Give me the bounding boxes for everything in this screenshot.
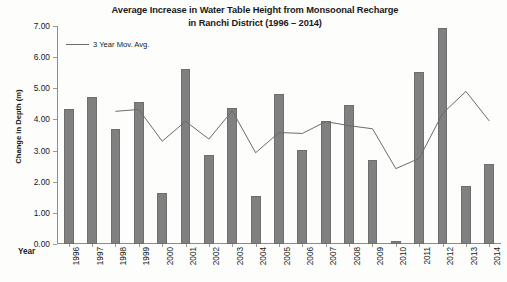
x-tick-mark [396,244,397,247]
x-tick-mark [279,244,280,247]
y-tick-mark [53,213,57,214]
chart-legend: 3 Year Mov. Avg. [66,40,149,49]
x-tick-mark [443,244,444,247]
x-tick-mark [186,244,187,247]
bar [297,150,307,244]
x-tick-label: 2008 [353,247,362,265]
y-tick-mark [53,244,57,245]
x-tick-mark [209,244,210,247]
y-tick-mark [53,119,57,120]
bar [227,108,237,244]
x-axis-title: Year [18,247,35,256]
x-tick-label: 2000 [166,247,175,265]
x-tick-mark [139,244,140,247]
x-tick-label: 2004 [259,247,268,265]
bar [111,129,121,244]
x-tick-label: 2013 [470,247,479,265]
x-tick-mark [256,244,257,247]
x-tick-label: 1998 [119,247,128,265]
x-tick-mark [92,244,93,247]
y-tick-mark [53,182,57,183]
x-tick-label: 2011 [423,247,432,265]
bar [64,109,74,244]
chart-title-line-1: Average Increase in Water Table Height f… [60,4,450,17]
legend-label: 3 Year Mov. Avg. [93,40,149,49]
x-tick-mark [326,244,327,247]
x-tick-label: 2012 [446,247,455,265]
bar [204,155,214,244]
x-tick-mark [69,244,70,247]
y-tick-mark [53,88,57,89]
x-tick-label: 2009 [376,247,385,265]
x-tick-mark [372,244,373,247]
x-tick-mark [489,244,490,247]
legend-line-icon [66,44,89,45]
x-tick-label: 2001 [189,247,198,265]
plot-area: 0.001.002.003.004.005.006.007.00 [57,26,501,244]
bar [461,186,471,244]
y-tick-mark [53,26,57,27]
y-tick-mark [53,151,57,152]
y-axis-line [57,26,58,244]
bar [251,196,261,244]
x-tick-label: 2002 [212,247,221,265]
bar [134,102,144,244]
x-tick-mark [302,244,303,247]
x-tick-label: 1996 [72,247,81,265]
x-tick-label: 1997 [96,247,105,265]
bar [274,94,284,244]
x-tick-label: 2010 [399,247,408,265]
bar [344,105,354,244]
bar [181,69,191,244]
x-tick-mark [162,244,163,247]
x-tick-label: 2007 [329,247,338,265]
y-tick-mark [53,57,57,58]
bar [414,72,424,244]
bar [157,193,167,244]
x-tick-mark [419,244,420,247]
y-axis-title: Change in Depth (m) [14,57,23,197]
x-tick-label: 1999 [142,247,151,265]
x-tick-label: 2003 [236,247,245,265]
chart-container: Average Increase in Water Table Height f… [0,0,507,282]
x-tick-mark [232,244,233,247]
bar [368,160,378,244]
x-tick-mark [115,244,116,247]
bar [87,97,97,244]
x-tick-label: 2005 [283,247,292,265]
bar [484,164,494,244]
bar [438,28,448,244]
x-tick-mark [349,244,350,247]
x-tick-mark [466,244,467,247]
x-tick-label: 2014 [493,247,502,265]
bar [321,121,331,244]
x-tick-label: 2006 [306,247,315,265]
